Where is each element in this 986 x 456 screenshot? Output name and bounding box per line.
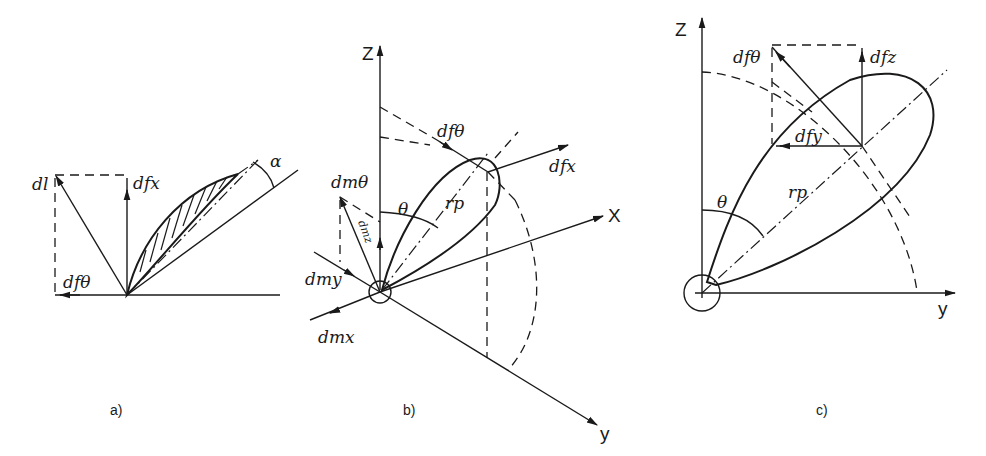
label-y-axis: y	[600, 423, 610, 444]
projection-arc	[508, 200, 537, 370]
label-dfx: dfx	[133, 173, 160, 193]
label-dftheta: dfθ	[63, 272, 90, 292]
panel-a: dl dfx dfθ α a)	[32, 151, 298, 418]
label-dfx: dfx	[549, 156, 576, 176]
dmtheta-vector	[340, 197, 380, 292]
caption-b: b)	[403, 402, 415, 418]
label-theta: θ	[717, 192, 727, 212]
force-diagram: dl dfx dfθ α a)	[0, 0, 986, 456]
panel-b: Z X y dfθ dfx dmθ dmz dmy dmx θ rp b)	[270, 43, 621, 444]
lobe	[382, 158, 500, 290]
dmy-arrowhead	[344, 270, 354, 276]
panel-c: Z y dfθ dfz dfy θ rp c)	[675, 18, 955, 418]
rp-line	[702, 70, 947, 293]
rp-line	[382, 153, 488, 290]
theta-arc	[702, 210, 763, 236]
x-axis	[380, 216, 603, 292]
label-dfy: dfy	[795, 126, 822, 146]
label-z-axis: Z	[675, 19, 687, 40]
label-dmy: dmy	[305, 269, 342, 289]
label-dmtheta: dmθ	[331, 172, 368, 192]
label-dmx: dmx	[318, 327, 355, 347]
caption-c: c)	[816, 402, 828, 418]
label-theta: θ	[398, 199, 408, 219]
chord-extension	[238, 160, 258, 174]
dftheta-arrowhead	[776, 52, 790, 67]
label-dl: dl	[32, 174, 48, 194]
projection-line	[495, 132, 518, 158]
label-rp: rp	[788, 182, 807, 202]
label-x-axis: X	[608, 205, 621, 226]
label-y-axis: y	[938, 298, 948, 319]
projection-arc	[702, 72, 917, 291]
label-dftheta: dfθ	[733, 47, 760, 67]
label-dftheta: dfθ	[437, 121, 464, 141]
projection-line	[772, 82, 812, 112]
projection-line	[380, 137, 430, 145]
label-rp: rp	[445, 193, 464, 213]
label-dfz: dfz	[870, 47, 897, 67]
label-z-axis: Z	[362, 43, 374, 64]
projection-line	[380, 107, 437, 140]
label-alpha: α	[270, 151, 282, 171]
caption-a: a)	[110, 402, 122, 418]
dftheta-arrowhead	[440, 142, 452, 150]
theta-arc	[380, 212, 438, 228]
lobe	[707, 74, 933, 285]
projection-line	[488, 172, 515, 200]
